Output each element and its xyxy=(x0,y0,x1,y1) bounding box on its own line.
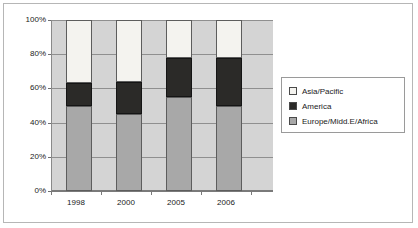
bar-segment-1998-europe xyxy=(66,106,92,192)
x-axis-line xyxy=(51,191,273,192)
legend-label-europe-middle-east-africa: Europe/Midd.E/Africa xyxy=(302,117,378,126)
bar-segment-2005-europe xyxy=(166,97,192,191)
legend-label-america: America xyxy=(302,102,331,111)
x-tick-label-2000: 2000 xyxy=(101,198,151,207)
bar-2006 xyxy=(216,20,242,191)
bar-segment-2006-europe xyxy=(216,106,242,192)
x-tick-label-1998: 1998 xyxy=(51,198,101,207)
bar-segment-2000-asia xyxy=(116,20,142,82)
legend-swatch-asia-pacific-icon xyxy=(289,87,297,95)
y-tick-label-100: 100% xyxy=(6,16,46,24)
y-axis: 100% 80% 60% 40% 20% 0% xyxy=(4,20,46,191)
bar-segment-2006-asia xyxy=(216,20,242,58)
x-tick-mark-3 xyxy=(201,191,202,195)
legend-swatch-europe-middle-east-africa-icon xyxy=(289,117,297,125)
bar-segment-1998-asia xyxy=(66,20,92,83)
bar-segment-2005-america xyxy=(166,58,192,97)
bar-2000 xyxy=(116,20,142,191)
x-tick-mark-2 xyxy=(151,191,152,195)
bar-segment-2005-asia xyxy=(166,20,192,58)
legend-swatch-america-icon xyxy=(289,102,297,110)
x-tick-mark-0 xyxy=(51,191,52,195)
legend-label-asia-pacific: Asia/Pacific xyxy=(302,87,343,96)
y-tick-label-0: 0% xyxy=(6,187,46,195)
legend-item-europe-middle-east-africa: Europe/Midd.E/Africa xyxy=(289,114,378,128)
bar-segment-2000-europe xyxy=(116,114,142,191)
x-tick-mark-1 xyxy=(101,191,102,195)
chart-frame: 100% 80% 60% 40% 20% 0% xyxy=(3,3,413,223)
y-tick-label-80: 80% xyxy=(6,50,46,58)
y-tick-label-40: 40% xyxy=(6,119,46,127)
bar-1998 xyxy=(66,20,92,191)
bar-segment-2000-america xyxy=(116,82,142,114)
bar-segment-2006-america xyxy=(216,58,242,106)
bar-2005 xyxy=(166,20,192,191)
legend-item-asia-pacific: Asia/Pacific xyxy=(289,84,343,98)
x-tick-label-2006: 2006 xyxy=(201,198,251,207)
x-tick-mark-4 xyxy=(251,191,252,195)
legend-item-america: America xyxy=(289,99,331,113)
y-tick-label-60: 60% xyxy=(6,84,46,92)
y-tick-label-20: 20% xyxy=(6,153,46,161)
legend: Asia/Pacific America Europe/Midd.E/Afric… xyxy=(281,77,405,133)
bar-segment-1998-america xyxy=(66,83,92,105)
x-tick-label-2005: 2005 xyxy=(151,198,201,207)
plot-area xyxy=(51,20,273,191)
